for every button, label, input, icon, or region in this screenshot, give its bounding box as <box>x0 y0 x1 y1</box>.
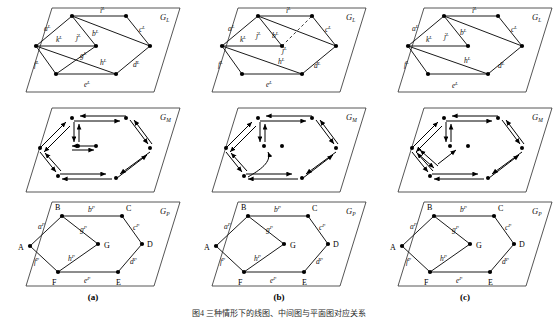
svg-text:hP: hP <box>68 254 75 263</box>
svg-text:hP: hP <box>254 254 261 263</box>
svg-text:dP: dP <box>130 257 137 266</box>
svg-text:jL: jL <box>281 46 287 55</box>
svg-text:eL: eL <box>452 81 458 90</box>
svg-text:bP: bP <box>274 205 281 214</box>
graph-label-GL: GL <box>532 12 541 23</box>
graph-label-GM: GM <box>346 112 357 123</box>
line-graph-edge-labels: aL kL jL bL iL cL gL fL hL eL dL <box>34 6 145 89</box>
svg-text:iL: iL <box>100 6 105 15</box>
graph-label-GP: GP <box>160 206 170 217</box>
svg-text:G: G <box>290 241 296 250</box>
panel-b-planar-graph: A B C D E F G aP bP cP dP eP fP gP hP GP <box>186 194 372 294</box>
svg-text:hL: hL <box>100 58 107 67</box>
svg-text:cL: cL <box>511 25 517 34</box>
line-graph-nodes <box>220 14 338 76</box>
svg-text:iL: iL <box>286 6 291 15</box>
graph-label-GL: GL <box>346 12 355 23</box>
svg-text:gP: gP <box>80 225 87 234</box>
svg-text:bL: bL <box>92 29 99 38</box>
svg-text:E: E <box>116 278 121 287</box>
svg-text:B: B <box>55 203 60 212</box>
plane-parallelogram <box>26 202 180 286</box>
svg-text:D: D <box>147 240 153 249</box>
svg-text:kL: kL <box>56 35 62 44</box>
svg-text:bP: bP <box>460 205 467 214</box>
caption-b: (b) <box>186 292 372 302</box>
svg-text:F: F <box>424 278 429 287</box>
plane-parallelogram <box>398 202 552 286</box>
graph-label-GM: GM <box>532 112 543 123</box>
svg-text:dP: dP <box>502 257 509 266</box>
panel-c-medial-graph: GM <box>372 100 558 200</box>
plane-parallelogram <box>398 8 552 92</box>
svg-text:cL: cL <box>139 25 145 34</box>
graph-label-GP: GP <box>532 206 542 217</box>
panel-c-line-graph: aL kL jL bL iL cL fL hL eL dL GL <box>372 0 558 100</box>
svg-text:kL: kL <box>426 35 432 44</box>
svg-text:dL: dL <box>498 61 505 70</box>
svg-text:G: G <box>476 241 482 250</box>
panel-captions: (a) (b) (c) <box>0 292 558 306</box>
svg-text:jL: jL <box>75 33 81 42</box>
line-graph-edges <box>408 16 522 74</box>
svg-text:bL: bL <box>272 31 279 40</box>
svg-text:bP: bP <box>88 205 95 214</box>
svg-text:hL: hL <box>464 56 471 65</box>
svg-text:D: D <box>333 240 339 249</box>
svg-text:hL: hL <box>278 57 285 66</box>
svg-text:eP: eP <box>270 276 276 285</box>
svg-text:C: C <box>312 204 317 213</box>
svg-text:eL: eL <box>84 80 90 89</box>
svg-text:eP: eP <box>84 276 90 285</box>
svg-text:A: A <box>390 243 396 252</box>
svg-text:fL: fL <box>34 60 39 69</box>
svg-text:C: C <box>498 204 503 213</box>
panel-a-line-graph: aL kL jL bL iL cL gL fL hL eL dL GL <box>0 0 186 100</box>
svg-text:jL: jL <box>443 32 449 41</box>
svg-text:C: C <box>126 204 131 213</box>
plane-parallelogram <box>26 8 180 92</box>
svg-text:aL: aL <box>228 24 235 33</box>
svg-text:cP: cP <box>319 223 325 232</box>
svg-text:kL: kL <box>240 35 246 44</box>
svg-text:fP: fP <box>34 257 39 266</box>
svg-text:fP: fP <box>220 257 225 266</box>
svg-text:eP: eP <box>456 276 462 285</box>
figure-root: aL kL jL bL iL cL gL fL hL eL dL GL <box>0 0 558 319</box>
svg-text:dL: dL <box>133 60 140 69</box>
panel-c-planar-graph: A B C D E F G aP bP cP dP eP fP gP hP GP <box>372 194 558 294</box>
svg-text:fL: fL <box>218 60 223 69</box>
svg-text:cL: cL <box>325 25 331 34</box>
svg-text:jL: jL <box>255 31 261 40</box>
svg-text:iL: iL <box>472 6 477 15</box>
svg-text:aL: aL <box>412 24 419 33</box>
caption-c: (c) <box>372 292 558 302</box>
svg-text:gP: gP <box>452 225 459 234</box>
svg-text:cP: cP <box>505 223 511 232</box>
svg-text:hP: hP <box>440 254 447 263</box>
line-graph-nodes <box>406 14 524 76</box>
svg-text:G: G <box>104 241 110 250</box>
svg-text:aL: aL <box>44 24 51 33</box>
panel-a-planar-graph: A B C D E F G aP bP cP dP eP fP gP hP GP <box>0 194 186 294</box>
panel-a-medial-graph: GM <box>0 100 186 200</box>
svg-text:F: F <box>52 278 57 287</box>
svg-text:fP: fP <box>406 257 411 266</box>
svg-text:A: A <box>18 243 24 252</box>
svg-text:E: E <box>302 278 307 287</box>
svg-text:F: F <box>238 278 243 287</box>
figure-caption: 图4 三种情形下的线图、中间图与平面图对应关系 <box>0 307 558 318</box>
svg-text:eL: eL <box>266 80 272 89</box>
svg-text:dL: dL <box>314 61 321 70</box>
panel-b-line-graph: aL kL jL bL iL cL jL fL hL eL dL GL <box>186 0 372 100</box>
graph-label-GM: GM <box>160 112 171 123</box>
svg-text:gP: gP <box>266 225 273 234</box>
graph-label-GP: GP <box>346 206 356 217</box>
svg-text:cP: cP <box>133 223 139 232</box>
svg-text:E: E <box>488 278 493 287</box>
plane-parallelogram <box>212 8 366 92</box>
caption-a: (a) <box>0 292 186 302</box>
svg-text:A: A <box>204 243 210 252</box>
svg-text:B: B <box>241 203 246 212</box>
svg-text:D: D <box>519 240 525 249</box>
